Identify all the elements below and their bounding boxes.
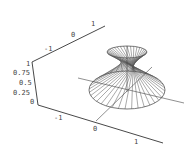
hyperboloid-plot: -1 0 1 1 0.75 0.5 0.25 0 -1 0 1 [0, 0, 196, 161]
tick-label: 0.5 [19, 79, 32, 87]
tick-label: 0.75 [13, 69, 30, 77]
back-axis-ticks: -1 0 1 [44, 20, 95, 53]
tick-label: 1 [134, 138, 138, 146]
tick-label: 0 [93, 125, 97, 133]
front-axis-ticks: -1 0 1 [54, 114, 138, 146]
tick-label: -1 [44, 45, 52, 53]
generator-line [132, 46, 134, 108]
tick-label: -1 [54, 114, 62, 122]
tick-label: 1 [26, 60, 30, 68]
tick-label: 0 [30, 98, 34, 106]
tick-label: 0 [71, 31, 75, 39]
tick-label: 1 [91, 20, 95, 28]
z-axis-ticks: 1 0.75 0.5 0.25 0 [13, 60, 34, 106]
front-axis [38, 105, 163, 143]
tick-label: 0.25 [13, 89, 30, 97]
generator-line [118, 47, 139, 108]
back-axis [32, 26, 105, 62]
